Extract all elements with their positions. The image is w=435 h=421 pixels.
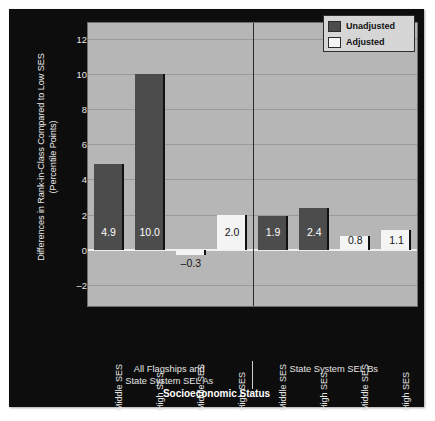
bar[interactable] (135, 74, 165, 250)
y-tick-label: 2 (57, 209, 87, 220)
y-tick-label: 10 (57, 68, 87, 79)
x-axis-ticks: Middle SESHigh SESMiddle SESHigh SESMidd… (87, 307, 416, 359)
legend-item[interactable]: Unadjusted (328, 19, 410, 33)
x-axis-title: Socioeconomic Status (9, 388, 424, 399)
group-label-line1: State System SEL Bs (254, 363, 414, 375)
chart-legend: UnadjustedAdjusted (323, 15, 415, 52)
chart-figure: Differences in Rank-in-Class Compared to… (9, 9, 424, 407)
legend-label: Unadjusted (346, 21, 395, 31)
legend-item[interactable]: Adjusted (328, 35, 410, 49)
bar-value-label: –0.3 (164, 257, 218, 269)
bar[interactable] (176, 250, 206, 255)
plot-area: 4.910.0–0.32.01.92.40.81.1 (87, 22, 418, 307)
group-label-line1: All Flagships and (89, 363, 249, 375)
y-axis-title-line1: Differences in Rank-in-Class Compared to… (36, 27, 48, 287)
group-label: State System SEL Bs (254, 363, 414, 375)
y-axis-ticks: 121086420–2 (53, 9, 87, 407)
y-tick-label: 12 (57, 33, 87, 44)
group-label-line2: State System SEL As (89, 375, 249, 387)
bar-value-label: 1.1 (369, 234, 418, 246)
y-tick-label: 6 (57, 139, 87, 150)
group-divider-line (253, 23, 254, 306)
bar-value-label: 10.0 (123, 226, 177, 238)
group-divider (252, 361, 253, 389)
y-tick-label: 0 (57, 244, 87, 255)
legend-swatch-icon (328, 21, 341, 32)
y-tick-label: –2 (57, 279, 87, 290)
y-tick-label: 4 (57, 174, 87, 185)
group-label: All Flagships andState System SEL As (89, 363, 249, 387)
legend-label: Adjusted (346, 37, 385, 47)
legend-swatch-icon (328, 37, 341, 48)
y-tick-label: 8 (57, 104, 87, 115)
